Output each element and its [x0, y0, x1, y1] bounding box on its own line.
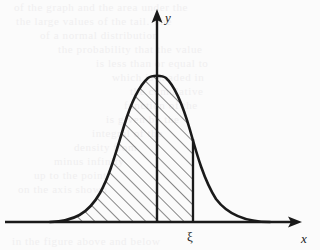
- xi-tick-label: ξ: [187, 229, 193, 244]
- figure-container: of the graph and the area under the the …: [0, 0, 320, 250]
- shaded-area-under-curve: [0, 0, 193, 223]
- y-axis-label: y: [163, 10, 171, 25]
- distribution-plot: y x ξ: [0, 0, 320, 250]
- x-axis-label: x: [300, 231, 307, 246]
